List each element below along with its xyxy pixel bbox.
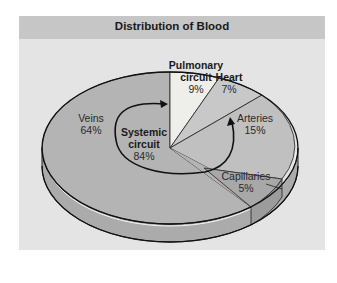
label-arteries: Arteries — [237, 112, 273, 124]
label-pulmonary-2: circuit — [180, 71, 212, 83]
label-pulmonary-value: 9% — [188, 83, 203, 95]
label-capillaries-value: 5% — [238, 182, 253, 194]
label-veins-value: 64% — [80, 124, 101, 136]
label-capillaries: Capillaries — [221, 170, 270, 182]
pie-chart: Pulmonary circuit 9% Heart 7% Arteries 1… — [0, 0, 337, 283]
label-heart-value: 7% — [221, 83, 236, 95]
label-veins: Veins — [78, 112, 104, 124]
label-heart: Heart — [216, 71, 243, 83]
label-systemic-1: Systemic — [121, 126, 167, 138]
label-systemic-2: circuit — [128, 138, 160, 150]
label-systemic-value: 84% — [133, 150, 154, 162]
label-arteries-value: 15% — [244, 124, 265, 136]
label-pulmonary-1: Pulmonary — [169, 59, 223, 71]
